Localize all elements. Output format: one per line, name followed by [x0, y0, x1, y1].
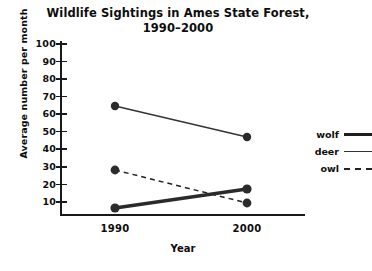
legend-label-owl: owl [320, 163, 339, 174]
legend-label-deer: deer [315, 146, 339, 157]
legend-swatch-owl-icon [344, 166, 372, 172]
legend-swatch-deer-icon [344, 149, 372, 155]
data-point-wolf-1990 [110, 203, 119, 212]
data-point-owl-2000 [243, 199, 252, 208]
legend-label-wolf: wolf [316, 129, 339, 140]
data-point-owl-1990 [111, 166, 120, 175]
legend-swatch-wolf-icon [344, 132, 372, 138]
data-point-deer-1990 [111, 102, 119, 110]
legend-item-wolf[interactable]: wolf [296, 126, 372, 143]
data-point-wolf-2000 [242, 184, 251, 193]
legend-item-owl[interactable]: owl [296, 160, 372, 177]
series-owl [111, 166, 252, 208]
chart-legend: wolf deer owl [296, 126, 372, 177]
data-point-deer-2000 [243, 133, 251, 141]
series-deer [111, 102, 251, 141]
legend-item-deer[interactable]: deer [296, 143, 372, 160]
chart-figure: Wildlife Sightings in Ames State Forest,… [0, 0, 372, 271]
